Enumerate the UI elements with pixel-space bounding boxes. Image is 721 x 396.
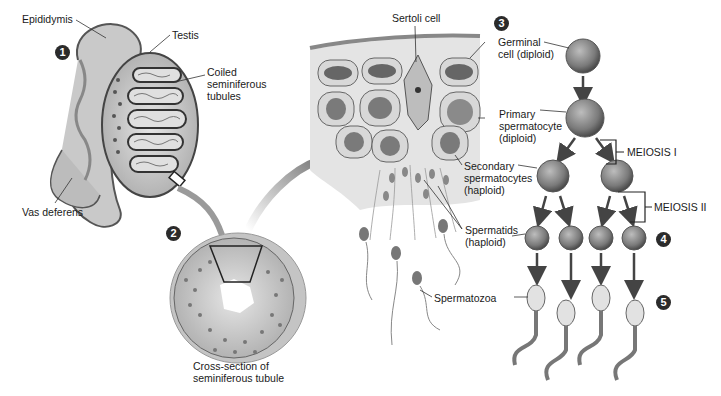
label-testis: Testis [172, 29, 199, 41]
tubule-wall-detail [310, 36, 480, 241]
label-spermatozoa: Spermatozoa [434, 292, 496, 304]
mature-spermatozoa [527, 285, 644, 326]
label-cross-section: Cross-section of seminiferous tubule [193, 360, 284, 384]
label-spermatids: Spermatids (haploid) [465, 224, 518, 248]
label-spermatids-line2: (haploid) [465, 236, 518, 248]
label-germinal-cell: Germinal cell (diploid) [498, 36, 554, 60]
label-secondary-line2: spermatocytes [464, 172, 532, 184]
step-badge-2: 2 [166, 226, 181, 241]
label-germinal-line1: Germinal [498, 36, 554, 48]
label-coiled-seminiferous-tubules: Coiled seminiferous tubules [207, 66, 267, 102]
label-cross-line1: Cross-section of [193, 360, 284, 372]
free-spermatozoa [359, 219, 460, 345]
label-meiosis-2: MEIOSIS II [654, 201, 707, 213]
label-coiled-line1: Coiled [207, 66, 267, 78]
label-epididymis: Epididymis [22, 13, 73, 25]
label-coiled-line3: tubules [207, 90, 267, 102]
step-badge-1: 1 [55, 45, 70, 60]
curved-arrow-2 [248, 160, 320, 230]
step-badge-5: 5 [656, 295, 671, 310]
testis-illustration [51, 24, 198, 227]
step-badge-3: 3 [494, 16, 509, 31]
label-coiled-line2: seminiferous [207, 78, 267, 90]
label-germinal-line2: cell (diploid) [498, 48, 554, 60]
label-secondary-line3: (haploid) [464, 184, 532, 196]
step-badge-4: 4 [656, 232, 671, 247]
label-secondary-line1: Secondary [464, 160, 532, 172]
label-primary-line2: spermatocyte [499, 120, 562, 132]
label-secondary-spermatocytes: Secondary spermatocytes (haploid) [464, 160, 532, 196]
label-primary-line3: (diploid) [499, 132, 562, 144]
label-primary-spermatocyte: Primary spermatocyte (diploid) [499, 108, 562, 144]
diagram-canvas [0, 0, 721, 396]
label-meiosis-1: MEIOSIS I [627, 146, 677, 158]
label-cross-line2: seminiferous tubule [193, 372, 284, 384]
tubule-cross-section [170, 233, 306, 363]
label-spermatids-line1: Spermatids [465, 224, 518, 236]
label-primary-line1: Primary [499, 108, 562, 120]
curved-arrow-1 [178, 188, 222, 235]
meiosis-lineage [514, 39, 652, 380]
label-vas-deferens: Vas deferens [22, 206, 83, 218]
label-sertoli-cell: Sertoli cell [392, 12, 440, 24]
